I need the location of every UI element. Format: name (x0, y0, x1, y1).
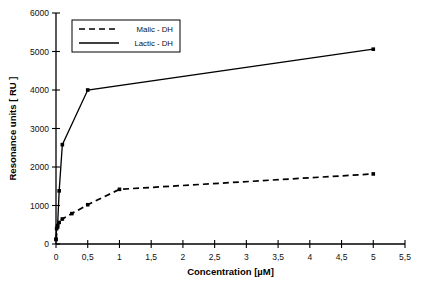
data-point-marker (54, 238, 58, 242)
data-point-marker (371, 47, 375, 51)
y-tick-label: 2000 (30, 162, 49, 172)
chart-container: 010002000300040005000600000,511,522,533,… (0, 0, 434, 286)
x-tick-label: 4,5 (336, 252, 348, 262)
x-tick-label: 1,5 (145, 252, 157, 262)
x-tick-label: 4 (307, 252, 312, 262)
y-tick-label: 4000 (30, 85, 49, 95)
data-point-marker (86, 88, 90, 92)
legend-label-1: Lactic - DH (134, 39, 173, 48)
line-chart: 010002000300040005000600000,511,522,533,… (0, 0, 434, 286)
y-tick-label: 6000 (30, 8, 49, 18)
series-line-1 (56, 49, 373, 239)
data-point-marker (118, 188, 122, 192)
y-axis-title: Resonance units [ RU ] (7, 77, 18, 181)
y-tick-label: 5000 (30, 47, 49, 57)
data-point-marker (56, 224, 60, 228)
y-tick-label: 3000 (30, 124, 49, 134)
data-point-marker (55, 227, 59, 231)
x-tick-label: 5,5 (399, 252, 411, 262)
data-point-marker (86, 203, 90, 207)
x-axis-title: Concentration [µM] (187, 266, 274, 277)
y-tick-label: 1000 (30, 201, 49, 211)
x-tick-label: 0,5 (82, 252, 94, 262)
x-tick-label: 0 (54, 252, 59, 262)
data-point-marker (70, 212, 74, 216)
data-point-marker (61, 143, 65, 147)
legend-label-0: Malic - DH (137, 25, 173, 34)
x-tick-label: 5 (371, 252, 376, 262)
x-tick-label: 3 (244, 252, 249, 262)
x-tick-label: 1 (117, 252, 122, 262)
data-point-marker (371, 172, 375, 176)
y-tick-label: 0 (44, 239, 49, 249)
x-tick-label: 2 (181, 252, 186, 262)
data-point-marker (57, 189, 61, 193)
series-line-0 (56, 174, 373, 239)
data-point-marker (61, 217, 65, 221)
x-tick-label: 3,5 (272, 252, 284, 262)
x-tick-label: 2,5 (209, 252, 221, 262)
